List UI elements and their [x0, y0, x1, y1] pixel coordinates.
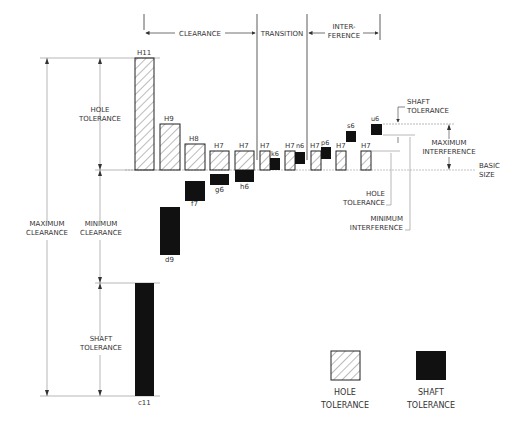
legend-shaft-label-1: SHAFT — [418, 388, 444, 397]
svg-text:d9: d9 — [165, 256, 174, 264]
shaft-n6 — [295, 152, 305, 164]
svg-text:H7: H7 — [310, 142, 320, 150]
legend-hole-label-1: HOLE — [334, 388, 356, 397]
hole-zones: H11 H9 H8 H7 H7 H7 H7 H7 H7 H7 — [135, 49, 371, 170]
maximum-interference-label-1: MAXIMUM — [432, 139, 467, 147]
svg-text:h6: h6 — [240, 183, 249, 191]
shaft-tolerance-label-left-2: TOLERANCE — [79, 344, 122, 352]
legend-shaft-swatch — [416, 351, 446, 380]
svg-text:H7: H7 — [239, 142, 249, 150]
hole-h7-h6 — [235, 151, 254, 170]
svg-text:n6: n6 — [296, 142, 304, 150]
hole-h11 — [135, 58, 154, 170]
legend-shaft-label-2: TOLERANCE — [406, 401, 455, 410]
shaft-s6 — [346, 131, 356, 142]
legend-hole-swatch — [331, 351, 360, 380]
hole-h9 — [160, 124, 180, 170]
shaft-h6 — [235, 170, 254, 182]
svg-text:c11: c11 — [138, 399, 151, 407]
hole-tolerance-label-right-2: TOLERANCE — [342, 199, 385, 207]
hole-h7-n6 — [285, 151, 295, 170]
svg-text:H9: H9 — [164, 115, 174, 123]
svg-text:k6: k6 — [271, 150, 279, 158]
maximum-interference-label-2: INTERFERENCE — [422, 148, 475, 156]
svg-text:H11: H11 — [137, 49, 151, 57]
interference-header-2: FERENCE — [328, 32, 360, 40]
shaft-tolerance-label-right-2: TOLERANCE — [406, 107, 449, 115]
transition-header: TRANSITION — [260, 30, 303, 38]
shaft-tolerance-label-right-1: SHAFT — [407, 98, 430, 106]
svg-text:H7: H7 — [361, 142, 371, 150]
hole-h7-g6 — [210, 151, 229, 170]
shaft-u6 — [371, 124, 382, 135]
shaft-g6 — [210, 174, 229, 185]
minimum-clearance-label-2: CLEARANCE — [80, 229, 122, 237]
hole-h7-p6 — [311, 151, 321, 170]
svg-text:g6: g6 — [215, 186, 224, 194]
hole-tolerance-label-right-1: HOLE — [366, 190, 385, 198]
basic-size-label-2: SIZE — [479, 171, 495, 179]
maximum-clearance-label-1: MAXIMUM — [30, 220, 65, 228]
legend: HOLE TOLERANCE SHAFT TOLERANCE — [320, 351, 455, 410]
hole-h8 — [185, 144, 205, 170]
svg-text:H7: H7 — [336, 142, 346, 150]
minimum-interference-label-1: MINIMUM — [370, 215, 403, 223]
hole-h7-u6 — [361, 151, 371, 170]
shaft-tolerance-label-left-1: SHAFT — [90, 335, 113, 343]
hole-h7-s6 — [336, 151, 346, 170]
svg-text:H7: H7 — [260, 142, 270, 150]
svg-text:H8: H8 — [189, 135, 199, 143]
hole-h7-k6 — [260, 151, 270, 170]
svg-text:H7: H7 — [285, 142, 295, 150]
shaft-k6 — [270, 158, 280, 170]
svg-text:u6: u6 — [371, 115, 379, 123]
svg-text:f7: f7 — [191, 200, 198, 208]
minimum-clearance-label-1: MINIMUM — [85, 220, 118, 228]
hole-tolerance-label-left-2: TOLERANCE — [78, 115, 121, 123]
interference-header-1: INTER- — [332, 23, 356, 31]
hole-tolerance-label-left-1: HOLE — [90, 106, 109, 114]
shaft-d9 — [160, 207, 180, 255]
shaft-c11 — [135, 283, 154, 396]
right-dimensions — [372, 107, 455, 230]
minimum-interference-label-2: INTERFERENCE — [350, 224, 403, 232]
svg-text:p6: p6 — [321, 139, 329, 147]
maximum-clearance-label-2: CLEARANCE — [26, 229, 68, 237]
svg-text:H7: H7 — [214, 142, 224, 150]
svg-text:s6: s6 — [347, 122, 355, 130]
shaft-f7 — [185, 181, 205, 201]
legend-hole-label-2: TOLERANCE — [320, 401, 369, 410]
clearance-header: CLEARANCE — [179, 30, 221, 38]
shaft-p6 — [321, 147, 331, 159]
tolerance-fits-diagram: CLEARANCE TRANSITION INTER- FERENCE HOLE… — [0, 0, 523, 437]
basic-size-label-1: BASIC — [479, 162, 500, 170]
